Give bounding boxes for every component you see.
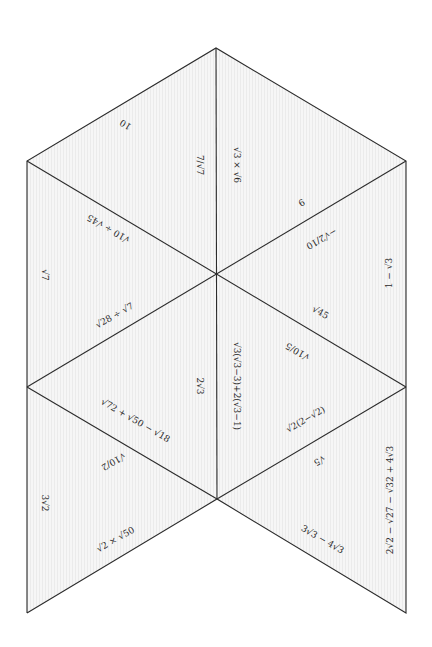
label-top-center-right: √3 × √6 xyxy=(232,147,242,183)
triangle-puzzle-diagram: 10 7/√7 √3 × √6 9 √10 ÷ √45 −√2/10 1 − √… xyxy=(0,0,432,647)
label-left-upper-side: √7 xyxy=(40,269,50,281)
label-right-upper-side: 1 − √3 xyxy=(384,258,394,289)
label-left-lower-side: 3√2 xyxy=(40,494,50,511)
label-top-center-left: 7/√7 xyxy=(195,155,205,175)
label-right-lower-side: 2√2 − √27 − √32 + 4√3 xyxy=(385,445,395,554)
label-center-right: √3(√3−3)+2(√3−1) xyxy=(232,342,242,430)
label-center-left: 2√3 xyxy=(195,377,205,394)
